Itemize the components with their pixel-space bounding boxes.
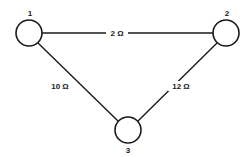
node-1-label: 1 <box>28 9 33 18</box>
edge-label-1-3: 10 Ω <box>51 82 69 91</box>
node-3-label: 3 <box>126 146 131 155</box>
node-1-circle <box>16 20 42 46</box>
edge-label-1-2: 2 Ω <box>110 29 124 38</box>
edge-label-2-3: 12 Ω <box>172 82 190 91</box>
node-2-label: 2 <box>225 9 230 18</box>
node-2-circle <box>213 20 239 46</box>
network-diagram: 2 Ω 10 Ω 12 Ω 1 2 3 <box>0 0 251 157</box>
node-3-circle <box>115 117 141 143</box>
